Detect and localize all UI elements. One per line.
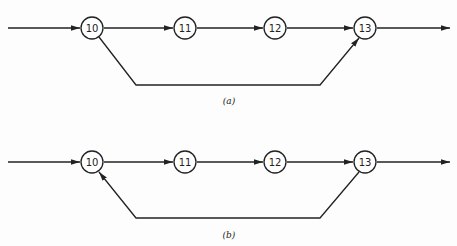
svg-text:12: 12 xyxy=(269,157,282,168)
feedback-edge-13-to-10 xyxy=(99,172,359,218)
svg-text:13: 13 xyxy=(359,157,372,168)
svg-text:10: 10 xyxy=(86,157,99,168)
caption-a: (a) xyxy=(223,96,236,106)
diagram-b: 10 11 12 13 (b) xyxy=(8,151,450,240)
network-diagram: 10 11 12 13 (a) xyxy=(0,0,457,246)
bypass-edge-10-to-13 xyxy=(99,37,359,85)
caption-b: (b) xyxy=(223,230,236,240)
node-13: 13 xyxy=(354,151,376,173)
diagram-a: 10 11 12 13 (a) xyxy=(8,17,450,106)
svg-text:12: 12 xyxy=(269,23,282,34)
svg-text:11: 11 xyxy=(179,23,192,34)
node-12: 12 xyxy=(264,151,286,173)
svg-text:11: 11 xyxy=(179,157,192,168)
node-10: 10 xyxy=(81,17,103,39)
node-12: 12 xyxy=(264,17,286,39)
figure-canvas: 10 11 12 13 (a) xyxy=(0,0,457,246)
node-13: 13 xyxy=(354,17,376,39)
node-11: 11 xyxy=(174,17,196,39)
node-10: 10 xyxy=(81,151,103,173)
node-11: 11 xyxy=(174,151,196,173)
svg-text:10: 10 xyxy=(86,23,99,34)
svg-text:13: 13 xyxy=(359,23,372,34)
